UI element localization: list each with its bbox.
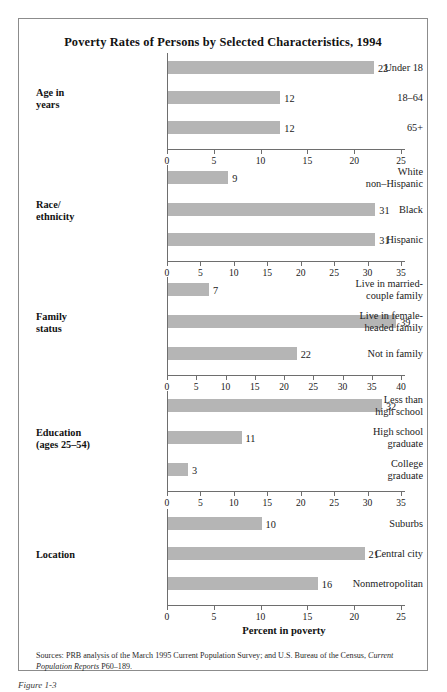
x-axis-tick bbox=[301, 262, 302, 266]
bar-category-label: Nonmetropolitan bbox=[277, 578, 427, 590]
bar-category-label: Live in female-headed family bbox=[277, 310, 427, 333]
bar-category-label: Live in married-couple family bbox=[277, 278, 427, 301]
panel-group-label: Race/ethnicity bbox=[36, 199, 132, 223]
x-axis-tick bbox=[401, 492, 402, 496]
bar-category-label: Under 18 bbox=[277, 62, 427, 74]
x-axis-tick bbox=[401, 606, 402, 610]
x-axis-tick bbox=[167, 492, 168, 496]
x-axis-line bbox=[167, 149, 405, 150]
bar-value-label: 10 bbox=[266, 519, 276, 530]
x-axis-tick bbox=[368, 262, 369, 266]
x-axis-tick bbox=[401, 376, 402, 380]
bar-category-label-line: Not in family bbox=[277, 348, 423, 360]
x-axis-line bbox=[167, 605, 405, 606]
bar-value-label: 9 bbox=[232, 173, 237, 184]
x-axis-tick bbox=[401, 262, 402, 266]
x-axis-tick-label: 5 bbox=[211, 612, 216, 622]
x-axis-tick-label: 10 bbox=[256, 612, 266, 622]
x-axis-tick-label: 25 bbox=[329, 498, 339, 508]
x-axis-tick bbox=[334, 492, 335, 496]
x-axis-tick-label: 20 bbox=[296, 498, 306, 508]
bar-category-label-line: Live in female- bbox=[277, 310, 423, 322]
panel-group-label: Age inyears bbox=[36, 87, 132, 111]
x-axis-tick bbox=[307, 150, 308, 154]
bar bbox=[168, 517, 262, 530]
x-axis-tick bbox=[301, 492, 302, 496]
bar-category-label: Collegegraduate bbox=[277, 458, 427, 481]
x-axis-tick bbox=[200, 492, 201, 496]
x-axis-tick bbox=[334, 262, 335, 266]
panel-group-label-line: Family bbox=[36, 311, 132, 323]
x-axis-line bbox=[167, 491, 405, 492]
panel-group-label: Familystatus bbox=[36, 311, 132, 335]
x-axis-tick bbox=[267, 262, 268, 266]
x-axis-tick bbox=[313, 376, 314, 380]
x-axis-tick-label: 15 bbox=[262, 498, 272, 508]
panel-group-label-line: ethnicity bbox=[36, 211, 132, 223]
x-axis-tick bbox=[261, 606, 262, 610]
bar-value-label: 7 bbox=[213, 285, 218, 296]
bar bbox=[168, 431, 242, 444]
bar bbox=[168, 171, 228, 184]
bar-category-label-line: high school bbox=[277, 406, 423, 418]
panel-group-label-line: (ages 25–54) bbox=[36, 439, 132, 451]
x-axis-tick-label: 20 bbox=[349, 612, 359, 622]
bar-category-label-line: Less than bbox=[277, 394, 423, 406]
chart-title: Poverty Rates of Persons by Selected Cha… bbox=[19, 35, 427, 50]
bar-category-label: 65+ bbox=[277, 122, 427, 134]
panel-group-label: Education(ages 25–54) bbox=[36, 427, 132, 451]
bar-category-label-line: Nonmetropolitan bbox=[277, 578, 423, 590]
figure-frame: Poverty Rates of Persons by Selected Cha… bbox=[18, 18, 428, 671]
panel-group-label-line: status bbox=[36, 323, 132, 335]
x-axis-tick bbox=[200, 262, 201, 266]
bar bbox=[168, 91, 280, 104]
bar-value-label: 3 bbox=[192, 465, 197, 476]
bar-category-label-line: 18–64 bbox=[277, 92, 423, 104]
x-axis-line bbox=[167, 261, 405, 262]
bar-category-label-line: 65+ bbox=[277, 122, 423, 134]
bar-category-label-line: graduate bbox=[277, 470, 423, 482]
bar-category-label-line: Central city bbox=[277, 548, 423, 560]
x-axis-line bbox=[167, 375, 405, 376]
bar bbox=[168, 283, 209, 296]
chart-panel: Age inyears2212120510152025Under 1818–64… bbox=[19, 53, 427, 159]
bar-category-label-line: Live in married- bbox=[277, 278, 423, 290]
bar-category-label-line: non–Hispanic bbox=[277, 178, 423, 190]
panel-group-label-line: Location bbox=[36, 549, 132, 561]
bar-category-label-line: headed family bbox=[277, 322, 423, 334]
panel-group-label-line: Age in bbox=[36, 87, 132, 99]
source-report-title: Current Population Reports bbox=[36, 651, 393, 671]
bar-category-label-line: Hispanic bbox=[277, 234, 423, 246]
figure-caption: Figure 1-3 bbox=[18, 680, 56, 690]
chart-panel: Familystatus739220510152025303540Live in… bbox=[19, 277, 427, 385]
bar-category-label-line: College bbox=[277, 458, 423, 470]
bar-category-label: Not in family bbox=[277, 348, 427, 360]
bar-value-label: 11 bbox=[246, 433, 256, 444]
bar-category-label: High schoolgraduate bbox=[277, 426, 427, 449]
x-axis-tick-label: 0 bbox=[165, 498, 170, 508]
x-axis-tick bbox=[372, 376, 373, 380]
bar-category-label-line: Under 18 bbox=[277, 62, 423, 74]
x-axis-tick bbox=[167, 376, 168, 380]
bar-category-label-line: graduate bbox=[277, 438, 423, 450]
bar bbox=[168, 121, 280, 134]
source-note: Sources: PRB analysis of the March 1995 … bbox=[36, 651, 413, 672]
chart-panel: Race/ethnicity9313105101520253035Whiteno… bbox=[19, 165, 427, 271]
bar-category-label: Whitenon–Hispanic bbox=[277, 166, 427, 189]
bar-category-label-line: Suburbs bbox=[277, 518, 423, 530]
x-axis-tick bbox=[234, 262, 235, 266]
x-axis-tick bbox=[401, 150, 402, 154]
bar-category-label: Suburbs bbox=[277, 518, 427, 530]
x-axis-tick bbox=[307, 606, 308, 610]
x-axis-tick bbox=[284, 376, 285, 380]
x-axis-tick bbox=[196, 376, 197, 380]
x-axis-tick bbox=[214, 606, 215, 610]
panel-group-label: Location bbox=[36, 549, 132, 561]
bar-category-label: Hispanic bbox=[277, 234, 427, 246]
x-axis-tick bbox=[261, 150, 262, 154]
x-axis-tick bbox=[214, 150, 215, 154]
x-axis-tick-label: 10 bbox=[229, 498, 239, 508]
bar-category-label-line: High school bbox=[277, 426, 423, 438]
bar-category-label-line: couple family bbox=[277, 290, 423, 302]
x-axis-tick bbox=[267, 492, 268, 496]
